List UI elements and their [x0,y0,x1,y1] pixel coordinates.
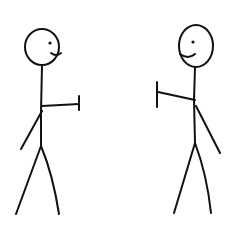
left-figure-head [25,29,59,65]
right-figure-head [179,25,213,67]
left-figure-left-leg [16,146,41,214]
left-figure-eye [48,41,51,44]
left-stick-figure [16,29,79,214]
left-figure-right-leg [41,146,59,214]
right-figure-right-leg [195,143,211,213]
right-stick-figure [157,25,220,213]
right-figure-left-leg [174,143,195,213]
drawing-canvas [0,0,232,226]
stick-figures-drawing [0,0,232,226]
left-figure-extended-arm [42,104,79,106]
right-figure-eye [191,40,194,43]
left-figure-lower-arm [21,111,42,149]
right-figure-lower-arm [196,106,220,153]
right-figure-smile [180,54,195,57]
left-figure-smile [51,53,61,55]
right-figure-extended-arm [158,92,195,100]
right-figure-body [194,67,195,143]
